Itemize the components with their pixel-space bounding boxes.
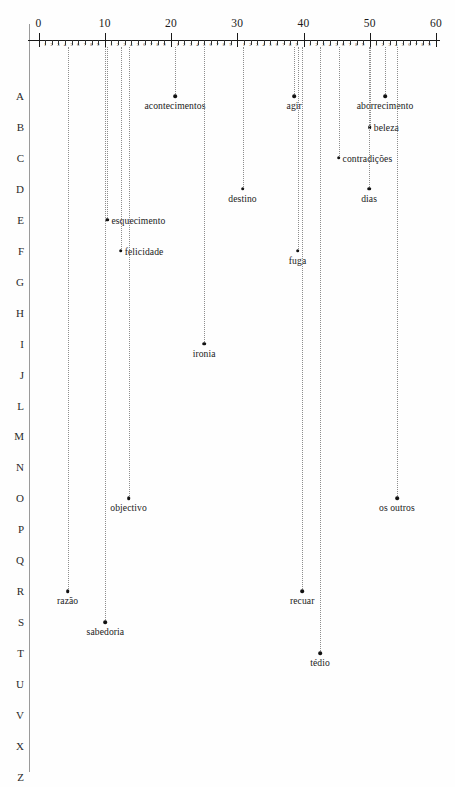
x-axis-minor-label-58: 8	[422, 42, 424, 47]
x-axis-minor-label-24: 4	[196, 42, 198, 47]
stem-raz-o	[68, 47, 69, 591]
left-frame-rule	[29, 24, 30, 772]
x-axis-minor-label-56: 6	[408, 42, 410, 47]
x-axis-minor-label-51: 1	[375, 42, 377, 47]
data-point-sabedoria[interactable]	[104, 620, 108, 624]
stem-contradi-es	[339, 47, 340, 158]
x-axis-minor-label-2: 2	[51, 42, 53, 47]
x-axis-minor-label-49: 9	[362, 42, 364, 47]
x-axis-minor-label-34: 4	[263, 42, 265, 47]
x-axis-major-label-40: 40	[298, 17, 310, 29]
x-axis-major-tick-20	[171, 33, 172, 47]
x-axis-minor-label-41: 1	[309, 42, 311, 47]
data-point-destino[interactable]	[241, 187, 245, 191]
chart-canvas: 0123456789101234567892012345678930123456…	[0, 0, 455, 787]
point-label-t-dio: tédio	[310, 657, 330, 668]
row-letter-F: F	[0, 245, 24, 257]
x-axis-major-label-20: 20	[165, 17, 177, 29]
row-letter-A: A	[0, 90, 24, 102]
x-axis-minor-label-18: 8	[157, 42, 159, 47]
stem-aborrecimento	[385, 47, 386, 96]
x-axis-minor-label-42: 2	[316, 42, 318, 47]
x-axis-minor-label-33: 3	[256, 42, 258, 47]
x-axis-minor-label-8: 8	[90, 42, 92, 47]
x-axis-minor-label-38: 8	[289, 42, 291, 47]
x-axis-minor-label-48: 8	[355, 42, 357, 47]
row-letter-L: L	[0, 400, 24, 412]
data-point-dias[interactable]	[367, 187, 371, 191]
x-axis-minor-label-27: 7	[216, 42, 218, 47]
x-axis-minor-label-52: 2	[382, 42, 384, 47]
stem-felicidade	[121, 47, 122, 251]
x-axis-line	[28, 40, 440, 41]
stem-t-dio	[320, 47, 321, 653]
x-axis-major-tick-60	[436, 33, 437, 47]
row-letter-P: P	[0, 523, 24, 535]
x-axis-minor-label-6: 6	[77, 42, 79, 47]
data-point-agir[interactable]	[292, 94, 296, 98]
row-letter-V: V	[0, 709, 24, 721]
x-axis-minor-label-4: 4	[64, 42, 66, 47]
x-axis-minor-label-57: 7	[415, 42, 417, 47]
row-letter-R: R	[0, 585, 24, 597]
point-label-dias: dias	[361, 193, 377, 204]
row-letter-G: G	[0, 276, 24, 288]
x-axis-minor-label-11: 1	[110, 42, 112, 47]
x-axis-minor-label-15: 5	[137, 42, 139, 47]
x-axis-minor-label-12: 2	[117, 42, 119, 47]
data-point-ironia[interactable]	[202, 342, 206, 346]
x-axis-minor-label-13: 3	[123, 42, 125, 47]
x-axis-minor-label-45: 5	[335, 42, 337, 47]
row-letter-I: I	[0, 338, 24, 350]
point-label-ironia: ironia	[193, 348, 216, 359]
x-axis-minor-label-16: 6	[143, 42, 145, 47]
stem-objectivo	[129, 47, 130, 498]
x-axis-minor-label-3: 3	[57, 42, 59, 47]
point-label-acontecimentos: acontecimentos	[144, 100, 205, 111]
row-letter-B: B	[0, 121, 24, 133]
row-letter-N: N	[0, 461, 24, 473]
point-label-aborrecimento: aborrecimento	[357, 100, 414, 111]
x-axis-minor-label-28: 8	[223, 42, 225, 47]
x-axis-minor-label-47: 7	[349, 42, 351, 47]
x-axis-minor-label-35: 5	[269, 42, 271, 47]
x-axis-minor-label-29: 9	[229, 42, 231, 47]
point-label-raz-o: razão	[57, 595, 78, 606]
stem-fuga	[298, 47, 299, 251]
x-axis-minor-label-22: 2	[183, 42, 185, 47]
point-label-os-outros: os outros	[379, 502, 415, 513]
data-point-aborrecimento[interactable]	[383, 94, 387, 98]
row-letter-E: E	[0, 214, 24, 226]
point-label-recuar: recuar	[290, 595, 315, 606]
data-point-recuar[interactable]	[300, 589, 304, 593]
x-axis-minor-label-44: 4	[329, 42, 331, 47]
data-point-objectivo[interactable]	[127, 497, 131, 501]
point-label-agir: agir	[287, 100, 302, 111]
point-label-beleza: beleza	[374, 121, 399, 132]
data-point-t-dio[interactable]	[318, 651, 322, 655]
row-letter-S: S	[0, 616, 24, 628]
x-axis-major-tick-0	[39, 33, 40, 47]
stem-dias	[369, 47, 370, 189]
data-point-os-outros[interactable]	[395, 497, 399, 501]
x-axis-minor-label-26: 6	[210, 42, 212, 47]
x-axis-minor-label-43: 3	[322, 42, 324, 47]
stem-sabedoria	[105, 47, 106, 622]
x-axis-major-label-50: 50	[364, 17, 376, 29]
data-point-fuga[interactable]	[296, 249, 300, 253]
x-axis-minor-label-23: 3	[190, 42, 192, 47]
x-axis-minor-label-9: 9	[97, 42, 99, 47]
row-letter-M: M	[0, 430, 24, 442]
stem-recuar	[302, 47, 303, 591]
x-axis-minor-label-19: 9	[163, 42, 165, 47]
row-letter-Z: Z	[0, 771, 24, 783]
x-axis-minor-label-17: 7	[150, 42, 152, 47]
row-letter-O: O	[0, 492, 24, 504]
data-point-acontecimentos[interactable]	[173, 94, 177, 98]
point-label-sabedoria: sabedoria	[87, 626, 125, 637]
x-axis-minor-label-1: 1	[44, 42, 46, 47]
x-axis-minor-label-14: 4	[130, 42, 132, 47]
data-point-contradi-es[interactable]	[337, 156, 341, 160]
data-point-raz-o[interactable]	[66, 589, 70, 593]
data-point-felicidade[interactable]	[119, 249, 123, 253]
